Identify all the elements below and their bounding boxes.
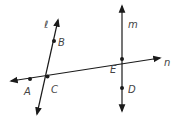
label-point-b: B bbox=[58, 37, 65, 48]
point-b bbox=[52, 39, 56, 43]
label-point-a: A bbox=[23, 86, 31, 97]
point-e bbox=[120, 57, 124, 61]
label-line-l: ℓ bbox=[44, 19, 48, 30]
line-n bbox=[11, 58, 160, 81]
line-l bbox=[37, 20, 58, 114]
label-point-e: E bbox=[110, 64, 117, 75]
label-line-m: m bbox=[128, 19, 138, 30]
point-a bbox=[28, 77, 32, 81]
point-d bbox=[120, 86, 124, 90]
label-line-n: n bbox=[164, 57, 170, 68]
label-point-c: C bbox=[51, 84, 58, 95]
geometry-diagram: ℓ m n A B C D E bbox=[0, 0, 173, 121]
point-c bbox=[46, 75, 50, 79]
label-point-d: D bbox=[128, 84, 136, 95]
